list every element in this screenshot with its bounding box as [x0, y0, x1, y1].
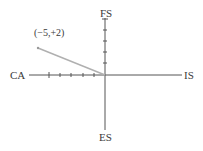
- vector-line: [38, 48, 105, 75]
- point-label: (−5,+2): [34, 27, 64, 39]
- axis-diagram: CA IS FS ES (−5,+2): [0, 0, 203, 151]
- label-ca: CA: [10, 69, 25, 81]
- label-is: IS: [184, 69, 194, 81]
- vector-endpoint: [37, 47, 39, 49]
- label-fs: FS: [100, 7, 112, 19]
- label-es: ES: [99, 131, 112, 143]
